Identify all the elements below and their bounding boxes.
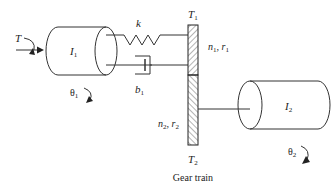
damper-b1 <box>106 56 188 74</box>
gear-2-torque-label: T2 <box>188 153 198 167</box>
gear-1-torque-label: T1 <box>188 8 198 22</box>
spring-k <box>106 35 188 45</box>
gear-1-params-label: n1, r1 <box>208 41 229 54</box>
gear-2 <box>188 75 198 145</box>
spring-label: k <box>136 17 142 29</box>
gear-1 <box>188 25 198 75</box>
inertia-1-cylinder <box>46 27 117 75</box>
theta-1-arrow <box>84 88 93 103</box>
inertia-2-cylinder <box>238 81 330 129</box>
theta-2-arrow <box>301 146 310 164</box>
diagram-caption: Gear train <box>173 172 213 183</box>
gear-2-params-label: n2, r2 <box>158 118 179 131</box>
theta-2-label: θ2 <box>288 146 297 159</box>
damper-label: b1 <box>135 83 145 97</box>
gear-train-diagram: T I1 θ1 k b1 T1 n1, r1 n2, r2 T2 I2 <box>0 0 336 188</box>
diagram-canvas: T I1 θ1 k b1 T1 n1, r1 n2, r2 T2 I2 <box>0 0 336 188</box>
inertia-2-label: I2 <box>284 100 293 114</box>
theta-1-label: θ1 <box>70 87 79 100</box>
inertia-1-label: I1 <box>69 45 78 59</box>
torque-label: T <box>15 32 22 44</box>
